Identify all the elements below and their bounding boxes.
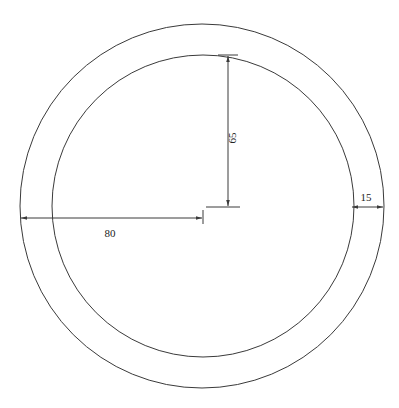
outer-circle: [20, 24, 384, 388]
dimension-label-15: 15: [361, 191, 373, 203]
dimension-outer-radius: 80: [21, 210, 203, 239]
dimension-inner-radius: 65: [206, 55, 240, 207]
dimension-label-80: 80: [105, 227, 117, 239]
dimension-label-65: 65: [226, 132, 238, 144]
dimension-ring-width: 15: [352, 191, 383, 207]
ring-drawing: 65 80 15: [0, 0, 399, 408]
inner-circle: [52, 55, 354, 357]
